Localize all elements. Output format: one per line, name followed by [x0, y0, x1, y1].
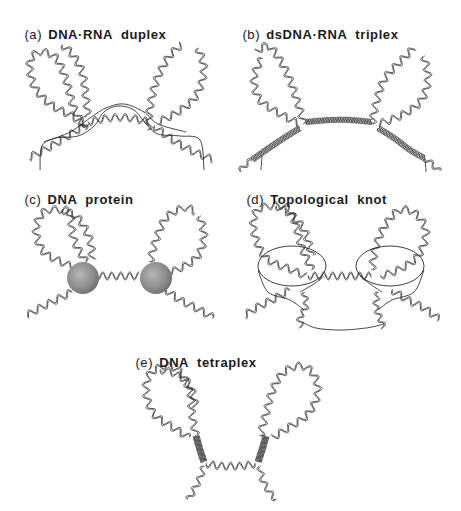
panel-e-tetraplex-diagram [142, 362, 322, 501]
protein-sphere-left [67, 262, 99, 294]
dna-structures-figure [0, 0, 461, 511]
panel-c-protein-diagram [28, 205, 214, 319]
panel-b-triplex-diagram [239, 42, 442, 172]
protein-sphere-right [140, 262, 172, 294]
panel-a-duplex-diagram [26, 42, 213, 170]
panel-d-knot-diagram [245, 202, 439, 330]
